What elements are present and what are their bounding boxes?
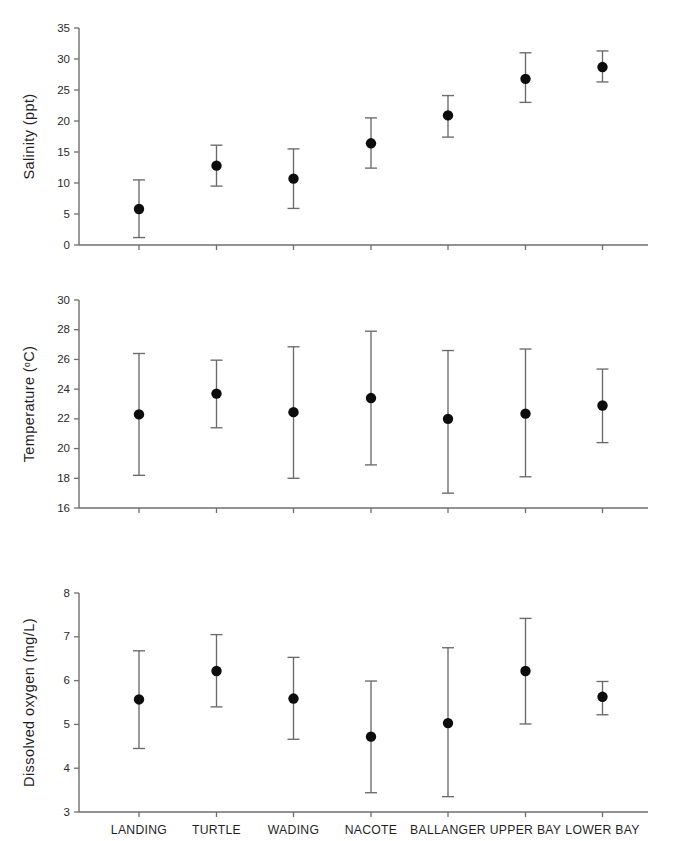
data-point-group xyxy=(597,681,609,714)
data-point-marker xyxy=(366,393,376,403)
y-axis-tick-label: 25 xyxy=(57,84,70,96)
y-axis-tick-label: 3 xyxy=(64,806,70,818)
data-point-marker xyxy=(597,400,607,410)
data-point-group xyxy=(442,351,454,494)
y-axis-tick-label: 6 xyxy=(64,674,70,686)
data-point-marker xyxy=(443,414,453,424)
data-point-marker xyxy=(443,110,453,120)
data-point-group xyxy=(288,347,300,478)
y-axis-tick-label: 5 xyxy=(64,718,70,730)
data-point-group xyxy=(442,96,454,138)
data-point-group xyxy=(597,369,609,443)
data-point-marker xyxy=(597,62,607,72)
data-point-marker xyxy=(134,409,144,419)
y-axis-tick-label: 30 xyxy=(57,294,70,306)
y-axis-tick-label: 18 xyxy=(57,472,70,484)
y-axis-tick-label: 20 xyxy=(57,442,70,454)
salinity-plot: 05101520253035Salinity (ppt) xyxy=(0,0,674,280)
x-axis-category-label: LANDING xyxy=(111,823,167,837)
data-point-group xyxy=(211,635,223,707)
data-point-marker xyxy=(288,407,298,417)
data-point-marker xyxy=(366,138,376,148)
data-point-group xyxy=(211,360,223,428)
temperature-plot: 1618202224262830Temperature (oC) xyxy=(0,280,674,560)
figure-environmental-parameters: 05101520253035Salinity (ppt) 16182022242… xyxy=(0,0,674,841)
y-axis-tick-label: 4 xyxy=(64,762,71,774)
y-axis-tick-label: 8 xyxy=(64,587,70,599)
data-point-marker xyxy=(520,408,530,418)
data-point-marker xyxy=(443,718,453,728)
panel-oxygen: 345678Dissolved oxygen (mg/L)LANDINGTURT… xyxy=(0,560,674,841)
data-point-group xyxy=(288,149,300,209)
data-point-group xyxy=(442,648,454,797)
data-point-marker xyxy=(134,694,144,704)
x-axis-category-label: TURTLE xyxy=(192,823,241,837)
y-axis-title: Temperature (oC) xyxy=(21,346,37,463)
data-point-marker xyxy=(288,693,298,703)
data-point-marker xyxy=(597,692,607,702)
y-axis-tick-label: 16 xyxy=(57,502,70,514)
x-axis-category-label: NACOTE xyxy=(345,823,398,837)
data-point-group xyxy=(133,353,145,475)
data-point-group xyxy=(365,681,377,793)
y-axis-tick-label: 5 xyxy=(64,208,70,220)
data-point-marker xyxy=(366,731,376,741)
y-axis-tick-label: 20 xyxy=(57,115,70,127)
data-point-group xyxy=(520,618,532,724)
y-axis-tick-label: 0 xyxy=(64,239,70,251)
data-point-marker xyxy=(211,160,221,170)
data-point-marker xyxy=(211,666,221,676)
data-point-group xyxy=(133,651,145,749)
y-axis-tick-label: 10 xyxy=(57,177,70,189)
panel-salinity: 05101520253035Salinity (ppt) xyxy=(0,0,674,280)
y-axis-tick-label: 22 xyxy=(57,412,70,424)
data-point-group xyxy=(520,349,532,477)
data-point-marker xyxy=(288,173,298,183)
data-point-group xyxy=(133,180,145,238)
y-axis-title: Salinity (ppt) xyxy=(21,93,37,179)
y-axis-tick-label: 7 xyxy=(64,630,70,642)
data-point-marker xyxy=(520,666,530,676)
data-point-group xyxy=(597,51,609,82)
data-point-group xyxy=(288,657,300,739)
x-axis-category-label: BALLANGER xyxy=(410,823,486,837)
x-axis-category-label: WADING xyxy=(268,823,319,837)
data-point-marker xyxy=(211,388,221,398)
y-axis-tick-label: 15 xyxy=(57,146,70,158)
data-point-group xyxy=(365,118,377,168)
data-point-group xyxy=(520,53,532,103)
y-axis-tick-label: 24 xyxy=(57,383,70,395)
y-axis-tick-label: 30 xyxy=(57,53,70,65)
data-point-marker xyxy=(520,74,530,84)
data-point-group xyxy=(211,145,223,186)
y-axis-title: Dissolved oxygen (mg/L) xyxy=(21,618,37,787)
panel-temperature: 1618202224262830Temperature (oC) xyxy=(0,280,674,560)
oxygen-plot: 345678Dissolved oxygen (mg/L)LANDINGTURT… xyxy=(0,560,674,841)
x-axis-category-label: UPPER BAY xyxy=(490,823,562,837)
y-axis-tick-label: 35 xyxy=(57,22,70,34)
data-point-marker xyxy=(134,204,144,214)
data-point-group xyxy=(365,331,377,465)
y-axis-tick-label: 26 xyxy=(57,353,70,365)
y-axis-tick-label: 28 xyxy=(57,323,70,335)
x-axis-category-label: LOWER BAY xyxy=(565,823,639,837)
